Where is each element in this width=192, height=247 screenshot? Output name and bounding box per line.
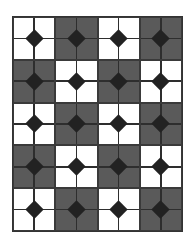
diamond-icon	[109, 158, 127, 176]
diamond-icon	[109, 29, 127, 47]
tile-light	[98, 188, 140, 231]
diamond-icon	[25, 115, 43, 133]
tile-dark	[13, 60, 55, 103]
diamond-icon	[109, 115, 127, 133]
diamond-icon	[67, 200, 85, 218]
diamond-icon	[25, 72, 43, 90]
tile-light	[13, 17, 55, 60]
tile-dark	[55, 188, 97, 231]
tile-light	[55, 145, 97, 188]
diamond-icon	[152, 158, 170, 176]
diamond-icon	[67, 29, 85, 47]
tile-light	[98, 17, 140, 60]
diamond-icon	[152, 200, 170, 218]
tile-light	[140, 60, 182, 103]
diamond-icon	[25, 158, 43, 176]
diamond-icon	[25, 29, 43, 47]
tile-light	[98, 103, 140, 146]
tile-dark	[140, 103, 182, 146]
tile-dark	[55, 17, 97, 60]
diamond-icon	[67, 72, 85, 90]
diamond-icon	[152, 115, 170, 133]
tile-dark	[55, 103, 97, 146]
tile-light	[55, 60, 97, 103]
tile-light	[13, 103, 55, 146]
tile-pattern-board	[12, 16, 183, 232]
tile-light	[140, 145, 182, 188]
diamond-icon	[152, 72, 170, 90]
diamond-icon	[109, 200, 127, 218]
tile-dark	[140, 188, 182, 231]
diamond-icon	[25, 200, 43, 218]
diamond-icon	[109, 72, 127, 90]
tile-light	[13, 188, 55, 231]
diamond-icon	[152, 29, 170, 47]
tile-dark	[13, 145, 55, 188]
tile-dark	[98, 60, 140, 103]
tile-dark	[140, 17, 182, 60]
diamond-icon	[67, 115, 85, 133]
diamond-icon	[67, 158, 85, 176]
tile-dark	[98, 145, 140, 188]
